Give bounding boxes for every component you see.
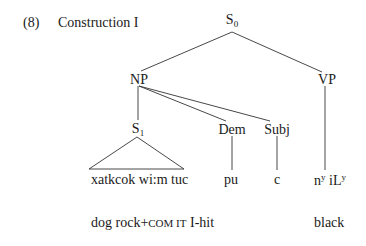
gloss-s1-prefix: dog rock+ [91, 215, 148, 230]
node-s1: S1 [132, 122, 144, 138]
gloss-vp: black [314, 216, 344, 230]
node-dem: Dem [218, 123, 245, 137]
terminal-subj-word: c [274, 173, 280, 187]
vp-word-sup2: y [341, 172, 346, 182]
node-subj: Subj [264, 123, 290, 137]
gloss-s1-suffix: I-hit [186, 215, 214, 230]
node-s0-label: S [226, 12, 234, 27]
node-np: NP [130, 73, 148, 87]
example-title: Construction I [58, 16, 139, 30]
terminal-s1-words: xatkcok wi:m tuc [91, 173, 188, 187]
vp-word-n: n [314, 173, 321, 188]
node-vp: VP [318, 73, 336, 87]
example-number: (8) [23, 16, 39, 30]
node-s0-subscript: 0 [234, 19, 239, 29]
node-s1-label: S [132, 121, 140, 136]
node-s1-subscript: 1 [140, 128, 145, 138]
vp-word-il: iL [326, 173, 342, 188]
terminal-dem-word: pu [224, 173, 238, 187]
gloss-s1-smallcaps: COM IT [148, 217, 186, 229]
terminal-vp-word: ny iLy [314, 173, 346, 188]
node-s0: S0 [226, 13, 238, 29]
gloss-s1: dog rock+COM IT I-hit [91, 216, 214, 230]
tree-branches [0, 0, 366, 246]
